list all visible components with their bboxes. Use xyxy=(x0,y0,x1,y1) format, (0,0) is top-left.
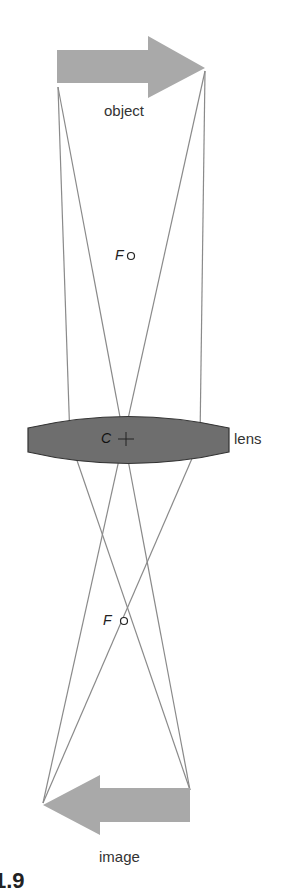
lens-shape xyxy=(28,417,229,464)
object-arrow xyxy=(57,36,205,98)
focal-point-bottom-icon xyxy=(121,618,128,625)
ray-tip-parallel xyxy=(200,71,205,440)
image-label: image xyxy=(99,848,140,865)
figure-caption-fragment: 1.9 xyxy=(0,868,25,888)
center-label: C xyxy=(101,430,111,446)
focal-label-bottom: F xyxy=(103,612,112,628)
image-arrow xyxy=(43,775,190,835)
focal-label-top: F xyxy=(115,247,124,263)
object-label: object xyxy=(104,102,144,119)
ray-tail-refracted xyxy=(70,440,190,790)
lens-label: lens xyxy=(234,430,262,447)
focal-point-top-icon xyxy=(128,253,135,260)
